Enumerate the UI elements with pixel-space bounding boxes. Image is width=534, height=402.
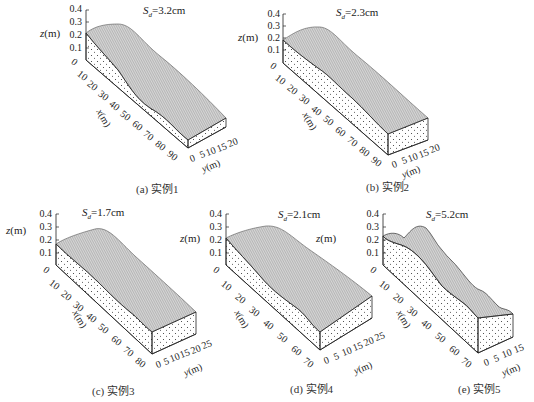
z-tick: 0.4 (357, 208, 379, 219)
z-tick: 0.4 (60, 3, 82, 14)
z-axis-label-d: z(m) (180, 232, 200, 244)
caption-b: (b) 实例2 (366, 178, 409, 194)
z-tick: 0.1 (60, 42, 82, 53)
panel-a: Sd=3.2cm z(m) 0.4 0.3 0.2 0.1 0 10 20 30… (0, 0, 260, 195)
panel-d: Sd=2.1cm z(m) 0.4 0.3 0.2 0.1 0 10 20 30… (180, 200, 360, 402)
sd-label-a: Sd=3.2cm (143, 4, 185, 19)
z-tick: 0.2 (258, 32, 280, 43)
z-tick: 0.3 (30, 221, 52, 232)
z-axis-label-b: z(m) (238, 31, 258, 43)
panel-e: Sd=5.2cm 0.4 0.3 0.2 0.1 z(m) 0 10 20 30… (350, 200, 534, 402)
panel-c: Sd=1.7cm z(m) 0.4 0.3 0.2 0.1 0 10 20 30… (0, 200, 190, 402)
surface-plot-c (0, 200, 190, 402)
z-tick: 0.3 (60, 16, 82, 27)
caption-d: (d) 实例4 (290, 380, 333, 396)
caption-e: (e) 实例5 (458, 380, 500, 396)
sd-label-c: Sd=1.7cm (82, 206, 124, 221)
z-tick: 0.3 (357, 221, 379, 232)
z-tick: 0.2 (60, 29, 82, 40)
z-tick: 0.4 (30, 208, 52, 219)
z-tick: 0.3 (200, 221, 222, 232)
z-axis-label-a: z(m) (40, 27, 60, 39)
panel-b: Sd=2.3cm z(m) 0.4 0.3 0.2 0.1 0 10 20 30… (260, 0, 534, 195)
z-axis-label-c: z(m) (6, 224, 26, 236)
sd-label-b: Sd=2.3cm (336, 6, 378, 21)
z-tick: 0.1 (258, 44, 280, 55)
sd-label-d: Sd=2.1cm (278, 208, 320, 223)
sd-label-e: Sd=5.2cm (426, 208, 468, 223)
z-tick: 0.2 (30, 234, 52, 245)
z-tick: 0.4 (258, 8, 280, 19)
caption-c: (c) 实例3 (92, 382, 134, 398)
z-tick: 0.1 (200, 247, 222, 258)
z-tick: 0.3 (258, 20, 280, 31)
z-tick: 0.2 (357, 234, 379, 245)
z-tick: 0.2 (200, 234, 222, 245)
z-tick: 0.1 (357, 247, 379, 258)
z-axis-label-e: z(m) (316, 232, 336, 244)
z-tick: 0.4 (200, 208, 222, 219)
z-tick: 0.1 (30, 247, 52, 258)
caption-a: (a) 实例1 (136, 180, 178, 196)
